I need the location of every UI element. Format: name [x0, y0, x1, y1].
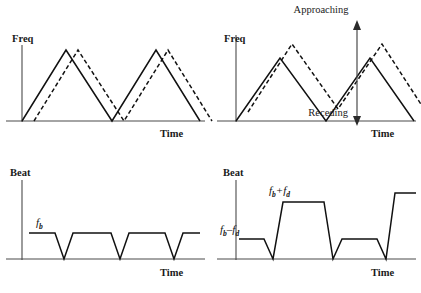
y-axis-label: Freq	[12, 33, 34, 44]
x-axis-label: Time	[371, 128, 394, 139]
y-axis-label: Beat	[223, 167, 244, 178]
waveform-transmitted	[22, 50, 200, 121]
high-sub2: d	[286, 190, 290, 199]
caption-strip	[0, 288, 421, 293]
waveform-beat	[29, 233, 200, 259]
annotation-approaching: Approaching	[294, 4, 350, 15]
x-axis-label: Time	[160, 267, 183, 278]
arrow-up-icon	[353, 20, 361, 30]
fmcw-radar-figure: Freq Time Freq Time Approaching Receding	[0, 0, 421, 293]
waveform-received	[248, 44, 421, 112]
y-axis-label: Beat	[10, 167, 31, 178]
beat-level-sub: b	[39, 222, 43, 231]
waveform-beat	[239, 193, 416, 259]
y-axis-label: Freq	[224, 33, 246, 44]
high-op: +	[276, 184, 283, 196]
panel-beat-stationary: Beat Time fb	[0, 148, 210, 293]
x-axis-label: Time	[160, 128, 183, 139]
panel-beat-moving: Beat Time fb–fd fb+fd	[211, 148, 421, 293]
beat-level-high-label: fb+fd	[269, 184, 290, 199]
beat-level-label: fb	[36, 216, 43, 231]
waveform-received	[34, 50, 212, 121]
panel-tx-rx-stationary: Freq Time	[0, 0, 210, 148]
low-sub2: d	[235, 229, 239, 238]
x-axis-label: Time	[371, 267, 394, 278]
panel-tx-rx-moving: Freq Time Approaching Receding	[211, 0, 421, 148]
annotation-receding: Receding	[308, 107, 348, 118]
